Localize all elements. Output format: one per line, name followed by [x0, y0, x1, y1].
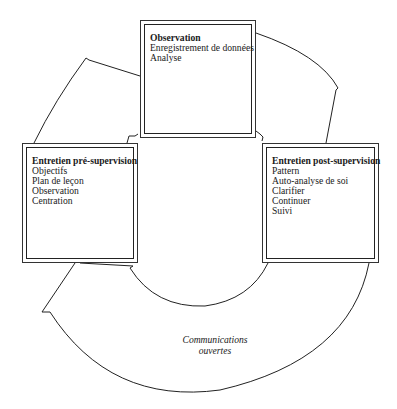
center-label-line1: Communications	[160, 334, 270, 345]
pre-supervision-box-inner: Entretien pré-supervision Objectifs Plan…	[26, 147, 134, 259]
arrow-top-to-right	[255, 33, 338, 143]
post-supervision-box: Entretien post-supervision Pattern Auto-…	[262, 143, 379, 263]
arrow-left-to-top	[34, 58, 140, 143]
pre-supervision-box: Entretien pré-supervision Objectifs Plan…	[22, 143, 138, 263]
arrow-top-to-right-inner	[256, 131, 263, 141]
arrow-right-to-left-inner	[80, 263, 268, 306]
arrow-left-to-top-inner	[127, 134, 138, 143]
pre-supervision-item: Centration	[32, 196, 133, 206]
center-label-line2: ouvertes	[160, 345, 270, 356]
center-label: Communications ouvertes	[160, 334, 270, 356]
observation-item: Analyse	[150, 53, 251, 63]
post-supervision-item: Suivi	[272, 206, 374, 216]
observation-box-inner: Observation Enregistrement de données An…	[144, 24, 252, 134]
observation-box: Observation Enregistrement de données An…	[140, 20, 256, 138]
post-supervision-box-inner: Entretien post-supervision Pattern Auto-…	[266, 147, 375, 259]
arrow-right-to-left	[42, 263, 369, 392]
